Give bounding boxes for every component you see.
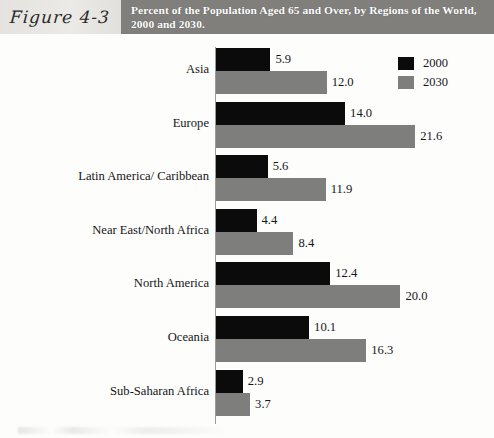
bar-track: 12.4	[216, 262, 357, 285]
figure-number-box: Figure 4-3	[0, 0, 121, 34]
category-label: Oceania	[9, 330, 215, 345]
bar-track: 20.0	[216, 285, 427, 308]
category-label: Sub-Saharan Africa	[9, 384, 215, 399]
page-smudge	[18, 427, 228, 434]
bar-value-label: 10.1	[314, 320, 336, 335]
bar-2000	[216, 370, 243, 393]
bar-2000	[216, 102, 345, 125]
bar-2030	[216, 71, 327, 94]
bar-2030	[216, 232, 293, 255]
bar-track: 10.1	[216, 316, 336, 339]
bar-track: 5.9	[216, 48, 291, 71]
bar-track: 4.4	[216, 209, 277, 232]
bar-value-label: 16.3	[371, 343, 393, 358]
bar-2000	[216, 262, 330, 285]
figure-title: Percent of the Population Aged 65 and Ov…	[131, 3, 487, 31]
plot-area: Asia5.912.0Europe14.021.6Latin America/ …	[0, 34, 494, 438]
bar-2030	[216, 285, 400, 308]
bar-group: Europe14.021.6	[0, 102, 494, 148]
bar-track: 21.6	[216, 125, 442, 148]
bar-2000	[216, 155, 268, 178]
bar-group: Sub-Saharan Africa2.93.7	[0, 370, 494, 416]
category-label: Near East/North Africa	[9, 223, 215, 238]
bar-2030	[216, 125, 415, 148]
bar-group: Oceania10.116.3	[0, 316, 494, 362]
bar-2030	[216, 339, 366, 362]
category-label: Asia	[9, 62, 215, 77]
figure-header: Figure 4-3 Percent of the Population Age…	[0, 0, 494, 34]
bar-group: Near East/North Africa4.48.4	[0, 209, 494, 255]
bar-2000	[216, 209, 257, 232]
bar-track: 11.9	[216, 178, 352, 201]
bar-2030	[216, 178, 326, 201]
bar-2030	[216, 393, 250, 416]
bar-value-label: 20.0	[405, 289, 427, 304]
chart-area: 20002030 Asia5.912.0Europe14.021.6Latin …	[0, 34, 494, 438]
bar-track: 14.0	[216, 102, 372, 125]
category-label: Europe	[9, 116, 215, 131]
bar-value-label: 12.0	[332, 75, 354, 90]
bar-value-label: 12.4	[335, 266, 357, 281]
category-label: North America	[9, 276, 215, 291]
figure-number-label: Figure 4-3	[10, 7, 111, 27]
bar-track: 16.3	[216, 339, 393, 362]
bar-value-label: 8.4	[298, 236, 314, 251]
bar-track: 8.4	[216, 232, 314, 255]
bar-track: 5.6	[216, 155, 288, 178]
bar-group: North America12.420.0	[0, 262, 494, 308]
bar-2000	[216, 316, 309, 339]
bar-track: 3.7	[216, 393, 271, 416]
bar-2000	[216, 48, 270, 71]
bar-value-label: 5.9	[275, 52, 291, 67]
bar-value-label: 3.7	[255, 397, 271, 412]
category-label: Latin America/ Caribbean	[9, 169, 215, 184]
bar-value-label: 21.6	[420, 129, 442, 144]
figure-title-band: Percent of the Population Aged 65 and Ov…	[121, 0, 494, 34]
bar-value-label: 11.9	[331, 182, 353, 197]
bar-value-label: 14.0	[350, 106, 372, 121]
bar-group: Latin America/ Caribbean5.611.9	[0, 155, 494, 201]
bar-group: Asia5.912.0	[0, 48, 494, 94]
bar-value-label: 5.6	[273, 159, 289, 174]
bar-value-label: 4.4	[262, 213, 278, 228]
bar-value-label: 2.9	[248, 374, 264, 389]
bar-track: 2.9	[216, 370, 263, 393]
bar-track: 12.0	[216, 71, 354, 94]
